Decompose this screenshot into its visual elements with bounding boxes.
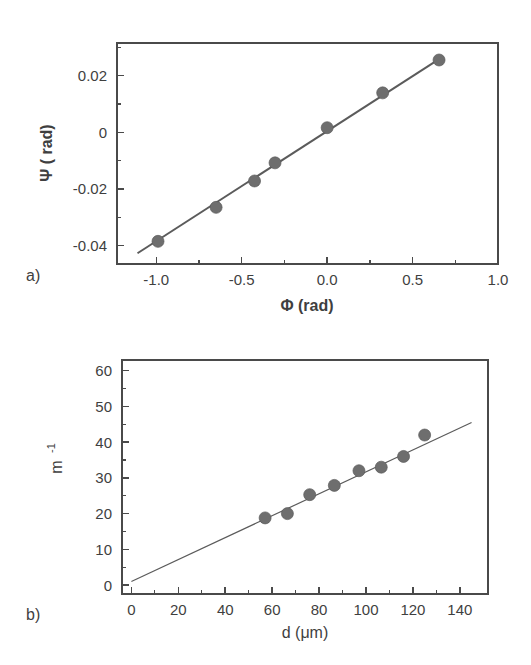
y-axis-tick-labels-a: 0.020-0.02-0.04 <box>73 67 107 254</box>
data-point <box>377 87 389 99</box>
x-tick-label: 120 <box>400 601 425 618</box>
y-axis-label-b-exponent: -1 <box>45 443 57 453</box>
data-point <box>304 489 316 501</box>
x-axis-tick-labels-b: 020406080100120140 <box>127 601 472 618</box>
data-point <box>259 512 271 524</box>
x-axis-tick-labels-a: -1.0-0.50.00.51.0 <box>143 271 508 288</box>
x-tick-label: 80 <box>311 601 328 618</box>
y-axis-label-a: Ψ ( rad) <box>38 124 55 181</box>
y-axis-tick-labels-b: 0102030405060 <box>95 362 112 593</box>
chart-panel-b: 020406080100120140 0102030405060 d (μm) … <box>0 340 531 665</box>
x-tick-label: 1.0 <box>488 271 509 288</box>
data-point <box>398 450 410 462</box>
figure-container: -1.0-0.50.00.51.0 0.020-0.02-0.04 Φ (rad… <box>0 0 531 665</box>
x-axis-ticks-b <box>131 587 459 594</box>
y-tick-label: 20 <box>95 505 112 522</box>
x-tick-label: -1.0 <box>143 271 169 288</box>
x-tick-label: 40 <box>217 601 234 618</box>
x-axis-label-a: Φ (rad) <box>280 297 333 314</box>
data-point <box>249 175 261 187</box>
y-tick-label: 60 <box>95 362 112 379</box>
panel-a-plot-frame <box>117 43 498 264</box>
y-tick-label: 0.02 <box>78 67 107 84</box>
data-point <box>210 201 222 213</box>
fit-line-a <box>138 56 444 253</box>
y-tick-label: 30 <box>95 469 112 486</box>
x-tick-label: 0.5 <box>402 271 423 288</box>
x-tick-label: 100 <box>353 601 378 618</box>
y-tick-label: 0 <box>104 577 112 594</box>
data-point <box>419 429 431 441</box>
fit-line <box>138 56 444 253</box>
x-tick-label: 20 <box>170 601 187 618</box>
plot-frame-b <box>122 360 488 594</box>
y-tick-label: 0 <box>99 124 107 141</box>
y-tick-label: 50 <box>95 398 112 415</box>
data-point <box>433 54 445 66</box>
fit-line <box>131 423 471 582</box>
panel-label-a: a) <box>26 267 40 284</box>
data-point <box>269 157 281 169</box>
data-point <box>353 465 365 477</box>
x-tick-label: -0.5 <box>229 271 255 288</box>
panel-label-b: b) <box>26 606 40 623</box>
y-axis-label-b-base: m <box>48 460 65 473</box>
y-tick-label: -0.02 <box>73 180 107 197</box>
y-tick-label: 10 <box>95 541 112 558</box>
x-axis-ticks-a <box>156 257 498 264</box>
fit-line-b <box>131 423 471 582</box>
y-axis-ticks-b <box>122 371 129 585</box>
y-tick-label: 40 <box>95 434 112 451</box>
chart-panel-a: -1.0-0.50.00.51.0 0.020-0.02-0.04 Φ (rad… <box>0 0 531 340</box>
y-axis-label-b: m -1 <box>45 443 65 473</box>
x-tick-label: 0.0 <box>317 271 338 288</box>
data-point <box>321 122 333 134</box>
data-point <box>375 461 387 473</box>
data-points-b <box>259 429 431 524</box>
y-tick-label: -0.04 <box>73 237 107 254</box>
x-tick-label: 60 <box>264 601 281 618</box>
x-axis-label-b: d (μm) <box>282 624 329 641</box>
panel-b-plot-frame <box>122 360 488 594</box>
data-point <box>152 235 164 247</box>
x-tick-label: 0 <box>127 601 135 618</box>
plot-frame-a <box>117 43 498 264</box>
data-point <box>328 479 340 491</box>
data-point <box>281 508 293 520</box>
x-tick-label: 140 <box>447 601 472 618</box>
y-axis-ticks-a <box>117 47 124 245</box>
